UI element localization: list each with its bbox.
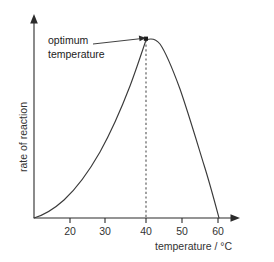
x-tick-label-50: 50: [176, 225, 188, 237]
x-axis-title: temperature / °C: [155, 240, 233, 252]
y-axis-title: rate of reaction: [17, 102, 29, 172]
x-tick-label-30: 30: [99, 225, 111, 237]
chart-figure: 20 30 40 50 60 optimum temperature rate …: [0, 0, 274, 262]
annotation-label-line2: temperature: [48, 48, 105, 60]
reaction-rate-curve: [34, 39, 219, 218]
y-axis-arrowhead: [30, 14, 38, 24]
rate-of-reaction-chart: 20 30 40 50 60 optimum temperature rate …: [0, 0, 274, 262]
annotation-leader-line: [93, 39, 142, 45]
x-axis-arrowhead: [231, 214, 241, 222]
x-tick-label-40: 40: [140, 225, 152, 237]
annotation-label-line1: optimum: [48, 34, 89, 46]
x-tick-label-60: 60: [212, 225, 224, 237]
x-tick-label-20: 20: [64, 225, 76, 237]
